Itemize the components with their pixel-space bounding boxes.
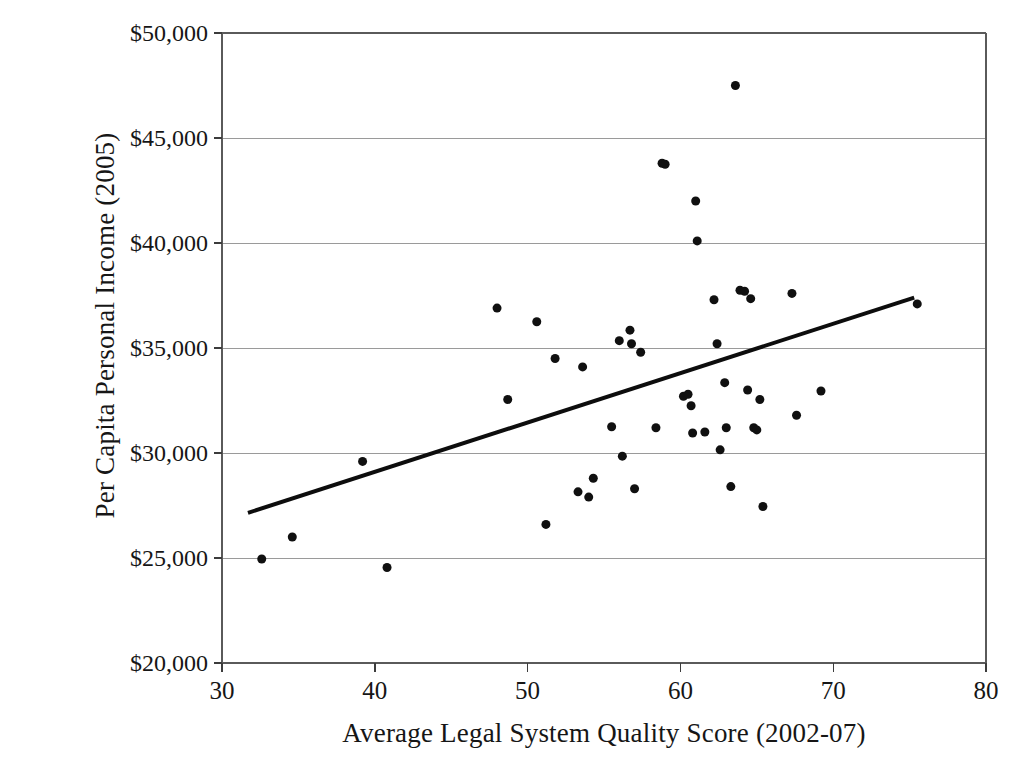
data-point — [691, 197, 700, 206]
data-point — [574, 487, 583, 496]
data-point — [551, 354, 560, 363]
data-point — [740, 287, 749, 296]
data-point — [636, 348, 645, 357]
data-point — [716, 445, 725, 454]
axis-ticks — [214, 33, 986, 672]
data-point — [700, 428, 709, 437]
data-point — [688, 429, 697, 438]
data-point — [713, 339, 722, 348]
data-point — [726, 482, 735, 491]
data-point — [752, 425, 761, 434]
data-point — [618, 452, 627, 461]
plot-canvas — [0, 0, 1014, 773]
data-point — [684, 390, 693, 399]
data-point — [731, 81, 740, 90]
scatter-plot-figure: Per Capita Personal Income (2005) Averag… — [0, 0, 1014, 773]
data-point — [589, 474, 598, 483]
data-point — [755, 395, 764, 404]
data-point — [625, 326, 634, 335]
data-point — [358, 457, 367, 466]
data-point — [578, 362, 587, 371]
data-point — [746, 294, 755, 303]
data-point — [710, 295, 719, 304]
data-point — [661, 160, 670, 169]
data-point — [743, 386, 752, 395]
trendline — [248, 298, 914, 513]
data-point — [383, 563, 392, 572]
data-point — [722, 423, 731, 432]
data-point — [693, 236, 702, 245]
data-point — [607, 422, 616, 431]
data-point — [627, 339, 636, 348]
data-point — [541, 520, 550, 529]
data-point — [584, 493, 593, 502]
data-point — [615, 336, 624, 345]
data-point — [288, 533, 297, 542]
data-point — [493, 304, 502, 313]
data-point — [687, 401, 696, 410]
trendline-segment — [248, 298, 914, 513]
data-point — [787, 289, 796, 298]
data-point — [503, 395, 512, 404]
data-point — [651, 423, 660, 432]
data-point — [816, 387, 825, 396]
data-point — [758, 502, 767, 511]
data-point — [792, 411, 801, 420]
data-point — [532, 317, 541, 326]
data-point — [630, 484, 639, 493]
data-point — [257, 555, 266, 564]
data-point — [913, 299, 922, 308]
gridlines — [222, 33, 986, 663]
data-point — [720, 378, 729, 387]
